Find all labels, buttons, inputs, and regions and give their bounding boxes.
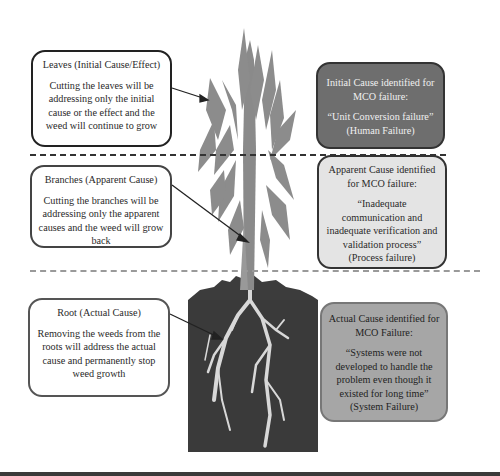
branches-body: Cutting the branches will be addressing … [38,194,164,248]
leaves-title: Leaves (Initial Cause/Effect) [39,58,164,72]
bottom-border [0,472,500,476]
initial-cause-title: Initial Cause identified for MCO failure… [324,76,437,103]
initial-cause-box: Initial Cause identified for MCO failure… [316,62,445,149]
actual-cause-title: Actual Cause identified for MCO Failure: [328,312,440,339]
apparent-cause-category: (Process failure) [325,251,439,265]
actual-cause-category: (System Failure) [328,400,440,414]
root-body: Removing the weeds from the roots will a… [36,327,162,381]
apparent-cause-box: Apparent Cause identified for MCO failur… [317,155,447,269]
root-explanation-box: Root (Actual Cause) Removing the weeds f… [28,298,170,397]
soil-icon [188,274,318,452]
leaves-body: Cutting the leaves will be addressing on… [39,79,164,133]
initial-cause-quote: “Unit Conversion failure” [324,110,437,124]
apparent-cause-title: Apparent Cause identified for MCO failur… [325,163,439,190]
actual-cause-quote: “Systems were not developed to handle th… [328,346,440,400]
root-title: Root (Actual Cause) [36,306,162,320]
actual-cause-box: Actual Cause identified for MCO Failure:… [320,302,448,422]
leaves-explanation-box: Leaves (Initial Cause/Effect) Cutting th… [31,50,172,147]
initial-cause-category: (Human Failure) [324,124,437,138]
branches-title: Branches (Apparent Cause) [38,173,164,187]
apparent-cause-quote: “Inadequate communication and inadequate… [325,197,439,251]
arrow-head-icon [200,95,208,102]
ground-level-divider [30,270,480,272]
branches-explanation-box: Branches (Apparent Cause) Cutting the br… [30,165,172,248]
